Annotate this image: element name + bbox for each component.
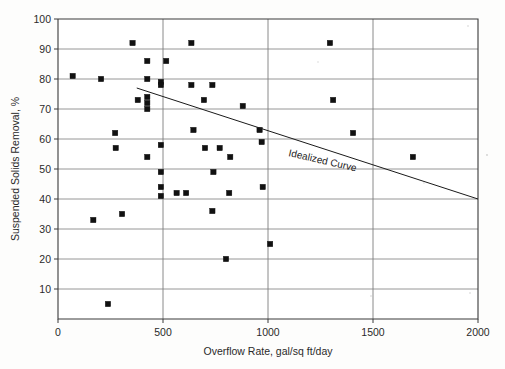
scan-speck bbox=[486, 154, 488, 156]
y-tick-label: 100 bbox=[33, 13, 51, 25]
data-point bbox=[158, 193, 163, 198]
data-point bbox=[189, 40, 194, 45]
data-point bbox=[211, 169, 216, 174]
y-axis-ticks: 102030405060708090100 bbox=[33, 13, 58, 295]
y-tick-label: 50 bbox=[39, 163, 51, 175]
chart-figure: 102030405060708090100 0500100015002000 I… bbox=[0, 0, 505, 369]
y-tick-label: 10 bbox=[39, 283, 51, 295]
data-point bbox=[145, 154, 150, 159]
data-point bbox=[330, 97, 335, 102]
data-point bbox=[70, 73, 75, 78]
x-tick-label: 2000 bbox=[466, 326, 490, 338]
data-point bbox=[130, 40, 135, 45]
data-point bbox=[217, 145, 222, 150]
data-point bbox=[145, 94, 150, 99]
data-point bbox=[210, 208, 215, 213]
y-axis-title: Suspended Solids Removal, % bbox=[9, 97, 21, 241]
data-point bbox=[259, 139, 264, 144]
data-point bbox=[145, 100, 150, 105]
data-point bbox=[267, 241, 272, 246]
data-point bbox=[174, 190, 179, 195]
y-tick-label: 40 bbox=[39, 193, 51, 205]
y-tick-label: 30 bbox=[39, 223, 51, 235]
x-tick-label: 0 bbox=[55, 326, 61, 338]
data-point bbox=[119, 211, 124, 216]
data-point bbox=[158, 82, 163, 87]
data-point bbox=[240, 103, 245, 108]
data-point bbox=[228, 154, 233, 159]
x-axis-title: Overflow Rate, gal/sq ft/day bbox=[204, 345, 334, 357]
data-point bbox=[91, 217, 96, 222]
data-point bbox=[163, 58, 168, 63]
data-point bbox=[223, 256, 228, 261]
y-tick-label: 90 bbox=[39, 43, 51, 55]
data-point bbox=[226, 190, 231, 195]
data-point bbox=[145, 76, 150, 81]
data-point bbox=[202, 145, 207, 150]
data-point bbox=[210, 82, 215, 87]
scan-speck bbox=[467, 25, 469, 27]
y-tick-label: 20 bbox=[39, 253, 51, 265]
data-point bbox=[158, 184, 163, 189]
data-point bbox=[135, 97, 140, 102]
data-point bbox=[112, 130, 117, 135]
data-point bbox=[113, 145, 118, 150]
data-point bbox=[191, 127, 196, 132]
scan-speck bbox=[370, 295, 372, 297]
data-point bbox=[183, 190, 188, 195]
x-tick-label: 1000 bbox=[256, 326, 280, 338]
y-tick-label: 80 bbox=[39, 73, 51, 85]
x-axis-ticks: 0500100015002000 bbox=[55, 319, 490, 338]
data-point bbox=[201, 97, 206, 102]
y-tick-label: 70 bbox=[39, 103, 51, 115]
data-point bbox=[98, 76, 103, 81]
data-point bbox=[410, 154, 415, 159]
data-point bbox=[350, 130, 355, 135]
data-point bbox=[145, 106, 150, 111]
scan-speck bbox=[469, 292, 471, 294]
scan-speck bbox=[317, 61, 318, 62]
scan-speck bbox=[423, 182, 424, 183]
x-tick-label: 500 bbox=[154, 326, 172, 338]
data-point bbox=[145, 58, 150, 63]
data-point bbox=[327, 40, 332, 45]
data-point bbox=[105, 301, 110, 306]
scatter-plot-canvas: 102030405060708090100 0500100015002000 I… bbox=[0, 0, 505, 369]
data-point bbox=[158, 142, 163, 147]
data-point bbox=[189, 82, 194, 87]
data-point bbox=[260, 184, 265, 189]
y-tick-label: 60 bbox=[39, 133, 51, 145]
data-point bbox=[158, 169, 163, 174]
x-tick-label: 1500 bbox=[361, 326, 385, 338]
